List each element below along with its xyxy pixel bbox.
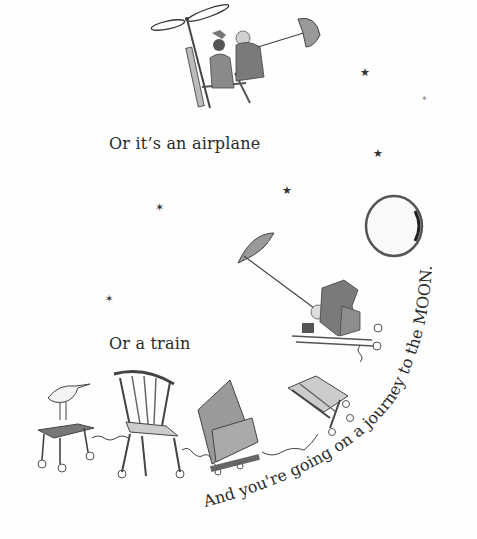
book-page: Or it’s an airplane ★ ✦ ★ ★ ✶ ✶ Or a tra… — [0, 0, 477, 539]
journey-text: And you're going on a journey to the MOO… — [200, 265, 436, 511]
svg-text:And you're going on a journey: And you're going on a journey to the MOO… — [200, 265, 436, 511]
curved-journey-text: And you're going on a journey to the MOO… — [0, 0, 477, 539]
